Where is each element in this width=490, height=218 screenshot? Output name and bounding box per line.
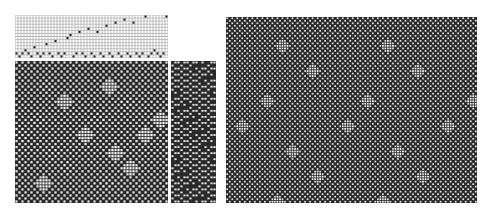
drawdown-grid <box>15 61 168 203</box>
treadling-grid <box>171 61 216 203</box>
fabric-simulation <box>226 17 477 203</box>
threading-draft-grid <box>15 15 168 58</box>
